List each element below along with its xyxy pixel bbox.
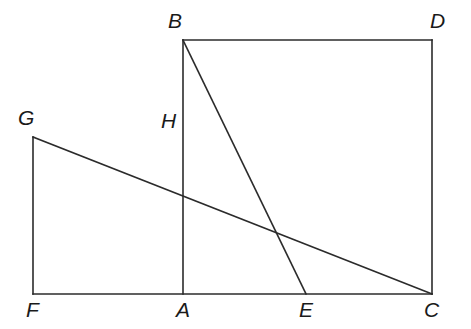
geometry-canvas <box>0 0 471 329</box>
vertex-label-e: E <box>299 299 313 320</box>
geometry-figure: B D G H F A E C <box>0 0 471 329</box>
segment-be-diagonal <box>183 40 306 294</box>
segment-gc-horizontal <box>33 137 432 294</box>
vertex-label-b: B <box>168 10 182 31</box>
vertex-label-d: D <box>430 10 445 31</box>
vertex-label-f: F <box>26 299 39 320</box>
vertex-label-g: G <box>18 107 34 128</box>
vertex-label-h: H <box>161 110 176 131</box>
vertex-label-a: A <box>176 299 190 320</box>
vertex-label-c: C <box>424 299 439 320</box>
